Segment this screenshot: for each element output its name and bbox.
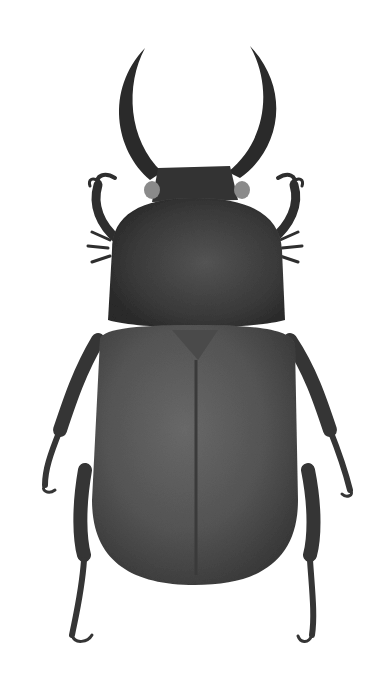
left-eye <box>144 181 160 199</box>
right-eye <box>234 181 250 199</box>
left-horn <box>119 48 162 180</box>
pronotum <box>108 198 285 328</box>
head <box>152 166 238 202</box>
horns <box>119 46 276 180</box>
right-horn <box>228 46 276 178</box>
beetle-illustration <box>0 0 387 681</box>
